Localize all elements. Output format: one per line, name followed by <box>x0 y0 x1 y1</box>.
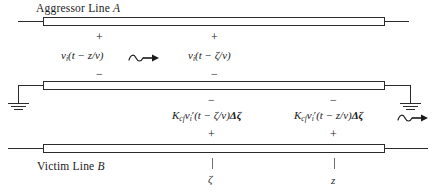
victim-line-conductor <box>43 144 385 153</box>
ground-right-stem <box>410 85 411 103</box>
victim-plus-left: + <box>208 128 215 140</box>
aggressor-voltage-right: vi(t − ζ/v) <box>188 50 231 62</box>
victim-minus-right: − <box>330 94 337 106</box>
aggressor-line-letter: A <box>113 2 120 14</box>
ground-right-bar-1 <box>400 103 421 104</box>
aggressor-line-label: Aggressor Line <box>36 2 110 14</box>
wave-arrow-icon <box>397 111 429 129</box>
coordinate-tick-z <box>334 158 335 169</box>
victim-source-left-argument: (t − ζ/v) <box>194 109 230 121</box>
aggressor-line-conductor <box>43 17 385 26</box>
ground-left-stem <box>18 85 19 103</box>
victim-left-lead <box>8 148 43 149</box>
aggressor-left-lead <box>18 21 43 22</box>
aggressor-plus-right: + <box>211 31 218 43</box>
victim-source-left-delta: Δζ <box>230 109 242 121</box>
coordinate-tick-zeta <box>212 158 213 169</box>
ground-left-bar-2 <box>11 106 26 107</box>
aggressor-plus-left: + <box>96 31 103 43</box>
ground-right-bar-2 <box>403 106 418 107</box>
coordinate-label-z: z <box>331 175 335 186</box>
aggressor-voltage-right-argument: (t − ζ/v) <box>195 49 231 61</box>
aggressor-minus-right: − <box>211 68 218 80</box>
ground-left-bar-3 <box>14 109 23 110</box>
victim-line-letter: B <box>97 160 104 172</box>
aggressor-line-title: Aggressor Line A <box>36 3 120 15</box>
aggressor-minus-left: − <box>96 68 103 80</box>
crosstalk-transmission-line-figure: Aggressor Line A + + vi(t − z/v) vi(t − … <box>0 0 436 192</box>
aggressor-voltage-left-argument: (t − z/v) <box>68 49 104 61</box>
wave-arrow-icon <box>128 51 160 69</box>
victim-minus-left: − <box>208 94 215 106</box>
victim-source-right-argument: (t − z/v) <box>316 109 352 121</box>
return-line-conductor <box>43 81 385 90</box>
ground-right-bar-3 <box>406 109 415 110</box>
victim-source-left: Kcfvi′(t − ζ/v)Δζ <box>172 110 242 122</box>
return-left-lead <box>18 85 43 86</box>
return-right-lead <box>385 85 410 86</box>
coordinate-label-zeta: ζ <box>208 174 212 185</box>
victim-line-title: Victim Line B <box>37 161 105 173</box>
victim-source-right: Kcfvi′(t − z/v)Δζ <box>294 110 363 122</box>
victim-source-right-delta: Δζ <box>352 109 364 121</box>
aggressor-voltage-left: vi(t − z/v) <box>61 50 104 62</box>
aggressor-right-lead <box>385 21 409 22</box>
victim-right-lead <box>385 148 428 149</box>
ground-left-bar-1 <box>8 103 29 104</box>
victim-plus-right: + <box>330 128 337 140</box>
victim-line-label: Victim Line <box>37 160 94 172</box>
